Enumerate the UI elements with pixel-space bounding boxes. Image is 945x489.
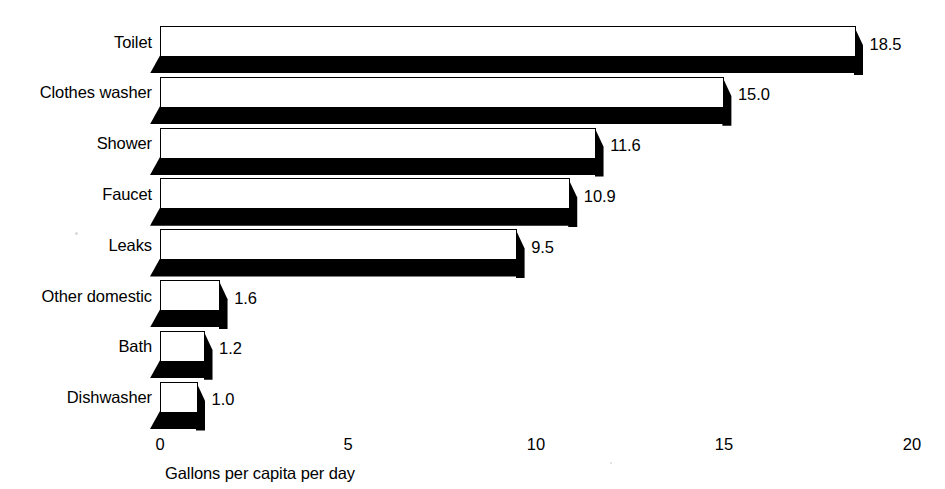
bar-chart: Toilet18.5Clothes washer15.0Shower11.6Fa…	[0, 0, 945, 489]
bar-front-face	[160, 77, 724, 108]
bar-value-label: 11.6	[610, 137, 641, 154]
bar-front-face	[160, 26, 856, 57]
bar-side-face	[568, 178, 580, 227]
x-tick-label: 10	[506, 436, 566, 453]
scan-artifact	[75, 232, 78, 235]
bar-side-face	[219, 280, 231, 329]
x-tick-label: 5	[318, 436, 378, 453]
bar-depth-face	[150, 208, 572, 226]
bar-value-label: 18.5	[870, 36, 902, 53]
category-label: Bath	[118, 338, 152, 355]
bar-front-face	[160, 229, 517, 260]
bar-value-label: 1.2	[219, 340, 242, 357]
plot-area: Toilet18.5Clothes washer15.0Shower11.6Fa…	[0, 0, 945, 489]
bar-depth-face	[150, 360, 207, 378]
bar-side-face	[854, 26, 866, 75]
bar-depth-face	[150, 55, 858, 73]
bar-front-face	[160, 128, 596, 159]
bar-value-label: 1.6	[234, 290, 257, 307]
bar-front-face	[160, 331, 205, 362]
category-label: Toilet	[114, 34, 152, 51]
category-label: Other domestic	[42, 288, 152, 305]
bar-value-label: 15.0	[738, 86, 770, 103]
bar-side-face	[516, 229, 528, 278]
category-label: Faucet	[102, 186, 152, 203]
bar-side-face	[722, 77, 734, 126]
category-label: Clothes washer	[40, 84, 152, 101]
x-tick-label: 15	[694, 436, 754, 453]
bar-depth-face	[150, 106, 726, 124]
scan-artifact	[610, 462, 612, 464]
category-label: Dishwasher	[67, 389, 152, 406]
category-label: Shower	[97, 135, 152, 152]
bar-depth-face	[150, 411, 200, 429]
bar-front-face	[160, 280, 220, 311]
category-label: Leaks	[108, 237, 152, 254]
bar-front-face	[160, 382, 198, 413]
bar-depth-face	[150, 259, 519, 277]
bar-value-label: 10.9	[584, 188, 616, 205]
bar-depth-face	[150, 157, 598, 175]
bar-side-face	[595, 128, 607, 177]
bar-value-label: 9.5	[531, 239, 554, 256]
x-tick-label: 20	[882, 436, 942, 453]
bar-front-face	[160, 178, 570, 209]
bar-value-label: 1.0	[212, 391, 235, 408]
bar-side-face	[196, 382, 208, 431]
bar-side-face	[204, 331, 216, 380]
bar-depth-face	[150, 309, 222, 327]
x-tick-label: 0	[130, 436, 190, 453]
x-axis-title: Gallons per capita per day	[165, 465, 355, 482]
